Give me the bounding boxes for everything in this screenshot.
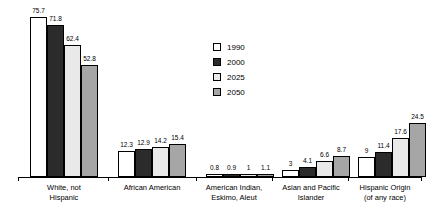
bar-value-label: 6.6 — [320, 151, 329, 159]
category-label-american-indian: American Indian, Eskimo, Aleut — [194, 183, 274, 203]
bar-value-label: 52.8 — [83, 55, 96, 63]
legend-label: 1990 — [227, 43, 245, 52]
bar-slot: 75.7 — [30, 8, 47, 177]
bar-slot: 6.6 — [316, 8, 333, 177]
black-swatch-icon — [213, 58, 221, 66]
bar-value-label: 4.1 — [303, 157, 312, 165]
bar-slot: 62.4 — [64, 8, 81, 177]
bar-2025 — [64, 45, 81, 177]
bar-1990 — [358, 157, 375, 177]
bar-slot: 24.5 — [409, 8, 426, 177]
bar-2050 — [169, 144, 186, 177]
bar-chart: 75.7 71.8 62.4 52.8 — [0, 0, 433, 217]
bar-value-label: 1.1 — [261, 164, 270, 172]
category-label-asian-pacific-islander: Asian and Pacific Islander — [271, 183, 351, 203]
bar-2050 — [257, 174, 274, 177]
bar-value-label: 24.5 — [411, 113, 424, 121]
axis-tick — [108, 178, 109, 181]
category-labels: White, not Hispanic African American Ame… — [18, 183, 422, 213]
bar-slot: 12.3 — [118, 8, 135, 177]
axis-tick — [348, 178, 349, 181]
bar-2025 — [152, 147, 169, 177]
category-label-line2: Hispanic — [22, 193, 106, 203]
bar-value-label: 12.3 — [120, 141, 133, 149]
bar-value-label: 15.4 — [171, 134, 184, 142]
bar-2000 — [135, 149, 152, 177]
bar-value-label: 9 — [365, 147, 369, 155]
bar-2000 — [375, 152, 392, 177]
legend-label: 2000 — [227, 58, 245, 67]
bar-2025 — [316, 161, 333, 177]
bar-2000 — [223, 174, 240, 177]
bar-1990 — [206, 174, 223, 177]
axis-tick — [196, 178, 197, 181]
axis-tick — [272, 178, 273, 181]
bar-value-label: 71.8 — [49, 15, 62, 23]
bar-value-label: 0.8 — [210, 164, 219, 172]
bar-slot: 17.6 — [392, 8, 409, 177]
bar-group-bars: 9 11.4 17.6 24.5 — [358, 8, 426, 177]
bar-value-label: 3 — [289, 160, 293, 168]
bar-value-label: 62.4 — [66, 35, 79, 43]
bar-2000 — [47, 25, 64, 177]
bar-1990 — [30, 17, 47, 177]
bar-value-label: 75.7 — [32, 7, 45, 15]
bar-slot: 3 — [282, 8, 299, 177]
category-label-african-american: African American — [108, 183, 196, 193]
category-label-line2: Eskimo, Aleut — [194, 193, 274, 203]
legend-item-2050: 2050 — [213, 86, 245, 98]
category-label-line2: Islander — [271, 193, 351, 203]
bar-value-label: 8.7 — [337, 146, 346, 154]
bar-1990 — [118, 151, 135, 177]
bar-value-label: 12.9 — [137, 139, 150, 147]
x-axis-line — [18, 177, 422, 178]
bar-2050 — [333, 156, 350, 177]
bar-1990 — [282, 170, 299, 177]
bar-value-label: 11.4 — [377, 142, 389, 150]
white-swatch-icon — [213, 43, 221, 51]
bar-slot: 15.4 — [169, 8, 186, 177]
legend-label: 2050 — [227, 88, 245, 97]
bar-2050 — [409, 123, 426, 177]
category-label-line1: American Indian, — [194, 183, 274, 193]
bar-2050 — [81, 65, 98, 177]
bar-2025 — [240, 174, 257, 177]
bar-slot: 14.2 — [152, 8, 169, 177]
category-label-white-not-hispanic: White, not Hispanic — [22, 183, 106, 203]
legend-label: 2025 — [227, 73, 245, 82]
category-label-line1: Hispanic Origin — [348, 183, 422, 193]
legend-item-2025: 2025 — [213, 71, 245, 83]
bar-slot: 9 — [358, 8, 375, 177]
bar-slot: 12.9 — [135, 8, 152, 177]
category-label-line1: White, not — [22, 183, 106, 193]
bar-group-bars: 12.3 12.9 14.2 15.4 — [118, 8, 186, 177]
bar-value-label: 17.6 — [394, 128, 407, 136]
category-label-hispanic-origin: Hispanic Origin (of any race) — [348, 183, 422, 203]
bar-value-label: 0.9 — [227, 164, 236, 172]
bar-slot: 11.4 — [375, 8, 392, 177]
chart-legend: 1990 2000 2025 2050 — [213, 41, 245, 101]
bar-slot: 8.7 — [333, 8, 350, 177]
light-gray-swatch-icon — [213, 73, 221, 81]
bar-group-bars: 3 4.1 6.6 8.7 — [282, 8, 350, 177]
legend-item-1990: 1990 — [213, 41, 245, 53]
category-label-line2: (of any race) — [348, 193, 422, 203]
medium-gray-swatch-icon — [213, 88, 221, 96]
category-label-line1: Asian and Pacific — [271, 183, 351, 193]
bar-slot: 1.1 — [257, 8, 274, 177]
category-label-line1: African American — [108, 183, 196, 193]
bar-slot: 71.8 — [47, 8, 64, 177]
bar-slot: 4.1 — [299, 8, 316, 177]
bar-value-label: 1 — [247, 164, 251, 172]
axis-tick — [18, 178, 19, 181]
bar-2000 — [299, 167, 316, 177]
axis-tick — [421, 178, 422, 181]
bar-group-bars: 75.7 71.8 62.4 52.8 — [30, 8, 98, 177]
bar-value-label: 14.2 — [154, 137, 167, 145]
bar-slot: 52.8 — [81, 8, 98, 177]
bar-2025 — [392, 138, 409, 177]
legend-item-2000: 2000 — [213, 56, 245, 68]
